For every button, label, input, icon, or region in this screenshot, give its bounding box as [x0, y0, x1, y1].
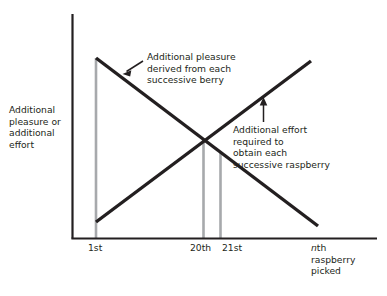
annotation-additional-effort: Additional effort required to obtain eac… [233, 124, 358, 170]
annotation-arrow-effort [260, 97, 268, 122]
annotation-additional-pleasure: Additional pleasure derived from each su… [147, 51, 257, 86]
x-tick-label-20th: 20th [190, 242, 211, 254]
x-axis-label-nth-rest: th raspberry picked [311, 242, 355, 276]
x-tick-label-1st: 1st [88, 242, 102, 254]
chart-figure: Additional pleasure or additional effort… [0, 0, 387, 296]
annotation-arrow-pleasure [123, 61, 144, 77]
x-tick-label-21st: 21st [222, 242, 242, 254]
x-axis-label-nth-raspberry: nth raspberry picked [311, 242, 381, 277]
y-axis-label: Additional pleasure or additional effort [9, 104, 71, 150]
